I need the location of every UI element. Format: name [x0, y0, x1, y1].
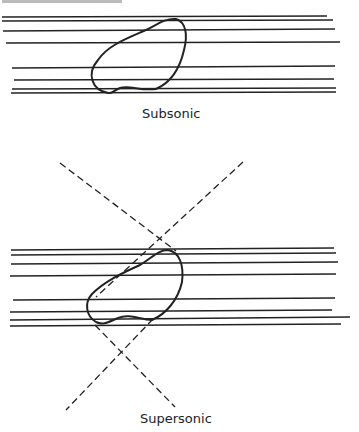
- supersonic-label: Supersonic: [140, 411, 212, 426]
- subsonic-label: Subsonic: [142, 106, 200, 121]
- front-shock-left: [60, 163, 176, 251]
- shock-wave-lines: [60, 162, 243, 410]
- flow-diagram: [0, 0, 359, 432]
- rear-shock-right: [66, 319, 153, 410]
- subsonic-panel: [2, 16, 340, 93]
- subsonic-streamlines: [2, 16, 340, 93]
- front-shock-right: [96, 162, 243, 297]
- supersonic-panel: [10, 162, 350, 410]
